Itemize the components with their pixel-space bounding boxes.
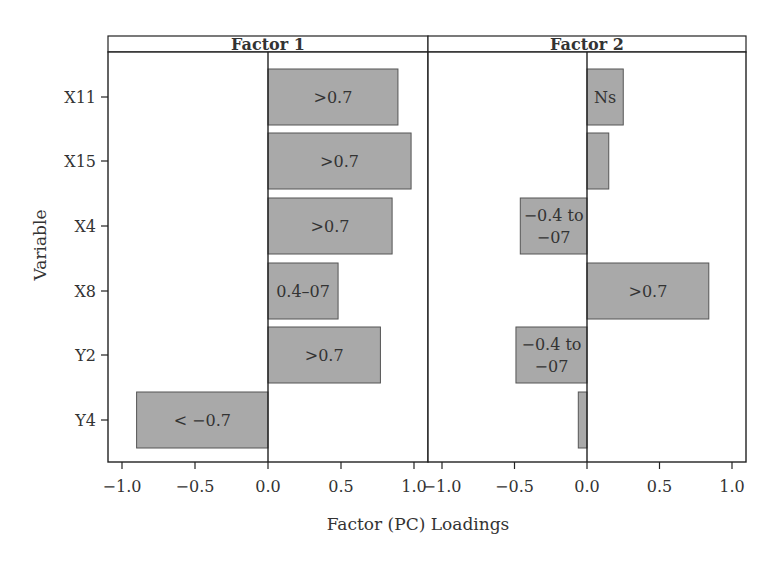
y-tick-label: X11 <box>64 88 96 107</box>
bar-label: < −0.7 <box>174 411 231 430</box>
x-tick-label: 0.0 <box>574 477 599 496</box>
bar-label: >0.7 <box>628 282 667 301</box>
x-tick-label: −0.5 <box>495 477 534 496</box>
bar-label: >0.7 <box>314 88 353 107</box>
y-tick-label: Y4 <box>74 411 96 430</box>
bar-label: −07 <box>537 228 571 247</box>
y-axis: X11X15X4X8Y2Y4 <box>64 88 108 430</box>
x-tick-label: 0.5 <box>328 477 353 496</box>
y-axis-label: Variable <box>30 210 50 282</box>
bar-y4 <box>578 392 587 448</box>
bar-label: −0.4 to <box>524 206 584 225</box>
panel-title: Factor 2 <box>550 35 624 54</box>
x-tick-label: −1.0 <box>423 477 462 496</box>
x-tick-label: −1.0 <box>103 477 142 496</box>
y-tick-label: X8 <box>74 282 96 301</box>
factor-loadings-chart: Factor 1>0.7>0.7>0.70.4–07>0.7< −0.7−1.0… <box>0 0 772 571</box>
y-tick-label: X4 <box>74 217 96 236</box>
x-tick-label: 1.0 <box>719 477 744 496</box>
bar-label: >0.7 <box>305 346 344 365</box>
panel-2: Factor 2Ns−0.4 to−07>0.7−0.4 to−07−1.0−0… <box>423 35 746 496</box>
y-tick-label: X15 <box>64 152 96 171</box>
bar-label: −07 <box>535 357 569 376</box>
bar-label: >0.7 <box>311 217 350 236</box>
bar-label: >0.7 <box>320 152 359 171</box>
panel-1: Factor 1>0.7>0.7>0.70.4–07>0.7< −0.7−1.0… <box>103 35 428 496</box>
x-tick-label: −0.5 <box>176 477 215 496</box>
x-tick-label: 0.5 <box>647 477 672 496</box>
bar-label: −0.4 to <box>521 335 581 354</box>
bar-label: 0.4–07 <box>276 282 330 301</box>
y-tick-label: Y2 <box>74 346 96 365</box>
x-tick-label: 0.0 <box>255 477 280 496</box>
x-axis-label: Factor (PC) Loadings <box>327 514 510 534</box>
bar-x15 <box>587 133 609 189</box>
bar-label: Ns <box>594 88 616 107</box>
panel-title: Factor 1 <box>231 35 305 54</box>
